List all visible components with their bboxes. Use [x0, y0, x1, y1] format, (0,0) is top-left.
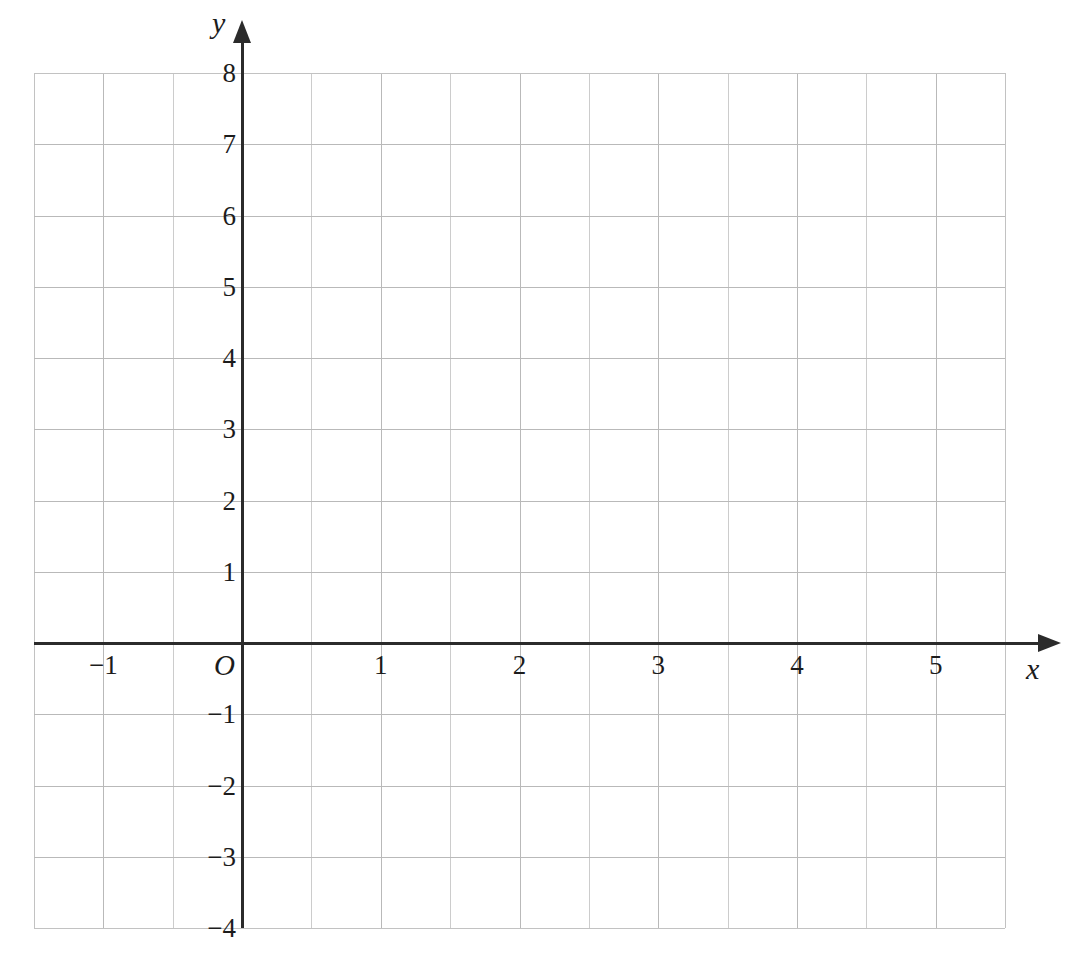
- coordinate-grid-figure: 87654321−1−2−3−4−112345 y x O: [0, 0, 1066, 977]
- y-axis-tick-label: −4: [207, 915, 236, 942]
- y-axis-tick-label: −3: [207, 843, 236, 870]
- gridline-horizontal: [34, 287, 1005, 288]
- x-axis-tick-label: 4: [790, 652, 804, 679]
- gridline-horizontal: [34, 786, 1005, 787]
- y-axis-tick-label: 5: [223, 273, 237, 300]
- y-axis-label: y: [212, 8, 225, 38]
- y-axis-tick-label: 8: [223, 60, 237, 87]
- y-axis-tick-label: 2: [223, 487, 237, 514]
- x-axis-arrowhead-icon: [1038, 634, 1061, 652]
- y-axis-tick-label: 4: [223, 345, 237, 372]
- x-axis-tick-label: 1: [374, 652, 388, 679]
- grid-area: [34, 73, 1005, 928]
- gridline-vertical: [1005, 73, 1006, 928]
- gridline-horizontal: [34, 501, 1005, 502]
- y-axis-arrowhead-icon: [233, 20, 251, 43]
- x-axis-tick-label: 3: [651, 652, 665, 679]
- y-axis-tick-label: −1: [207, 701, 236, 728]
- x-axis-tick-label: 2: [513, 652, 527, 679]
- x-axis-tick-label: 5: [929, 652, 943, 679]
- gridline-horizontal: [34, 572, 1005, 573]
- x-axis-tick-label: −1: [89, 652, 118, 679]
- y-axis-tick-label: 1: [223, 558, 237, 585]
- y-axis: [241, 42, 244, 928]
- gridline-horizontal: [34, 714, 1005, 715]
- x-axis: [34, 642, 1040, 645]
- gridline-horizontal: [34, 429, 1005, 430]
- gridline-horizontal: [34, 73, 1005, 74]
- y-axis-tick-label: 6: [223, 202, 237, 229]
- origin-label: O: [214, 651, 235, 680]
- y-axis-tick-label: 7: [223, 131, 237, 158]
- gridline-horizontal: [34, 144, 1005, 145]
- gridline-horizontal: [34, 358, 1005, 359]
- x-axis-label: x: [1026, 654, 1039, 684]
- gridline-horizontal: [34, 928, 1005, 929]
- y-axis-tick-label: 3: [223, 416, 237, 443]
- gridline-horizontal: [34, 216, 1005, 217]
- y-axis-tick-label: −2: [207, 772, 236, 799]
- gridline-horizontal: [34, 857, 1005, 858]
